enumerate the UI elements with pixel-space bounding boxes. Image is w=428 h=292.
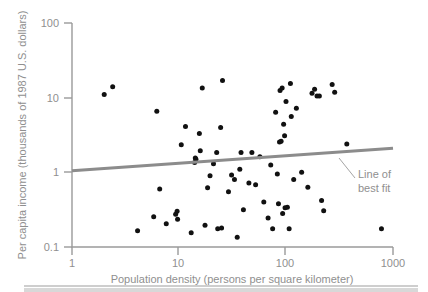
data-point (249, 150, 254, 155)
data-point (330, 82, 335, 87)
data-point (198, 148, 203, 153)
data-point (220, 78, 225, 83)
data-point (208, 173, 213, 178)
data-point (280, 211, 285, 216)
data-point (266, 215, 271, 220)
data-point (205, 185, 210, 190)
x-tick-marks (72, 247, 393, 255)
data-point (332, 90, 337, 95)
data-point (273, 110, 278, 115)
data-point (218, 125, 223, 130)
data-point (268, 163, 273, 168)
data-point (229, 173, 234, 178)
x-axis-title: Population density (persons per square k… (111, 273, 354, 285)
data-point (214, 150, 219, 155)
data-point (279, 139, 284, 144)
data-point (284, 99, 289, 104)
x-tick-label-100: 100 (276, 257, 294, 269)
data-point (200, 85, 205, 90)
data-point (219, 225, 224, 230)
data-point (157, 186, 162, 191)
x-tick-label-10: 10 (172, 257, 184, 269)
y-tick-label-10: 10 (47, 92, 59, 104)
y-axis-title: Per capita income (thousands of 1987 U.S… (16, 11, 28, 260)
data-point (203, 223, 208, 228)
data-point (241, 207, 246, 212)
data-point (285, 205, 290, 210)
data-point (281, 122, 286, 127)
scatter-plot: 100 10 1 0.1 1 10 100 1000 Population de… (0, 0, 428, 292)
annotation-leader-line (339, 158, 355, 178)
data-point (261, 200, 266, 205)
data-point (154, 109, 159, 114)
data-point (312, 87, 317, 92)
data-point (232, 177, 237, 182)
data-point (344, 141, 349, 146)
data-point (287, 226, 292, 231)
data-point (288, 81, 293, 86)
data-point (175, 217, 180, 222)
data-point (319, 198, 324, 203)
data-point (282, 133, 287, 138)
data-point (246, 180, 251, 185)
annotation-best-fit: best fit (358, 182, 390, 194)
data-point (135, 228, 140, 233)
x-tick-label-1000: 1000 (381, 257, 405, 269)
data-point (276, 201, 281, 206)
data-point (197, 131, 202, 136)
data-point (270, 226, 275, 231)
data-point (280, 85, 285, 90)
axis-spines (72, 23, 393, 247)
data-point (235, 235, 240, 240)
data-point (237, 167, 242, 172)
annotation-line-of: Line of (358, 168, 392, 180)
data-point (305, 185, 310, 190)
figure-container: 100 10 1 0.1 1 10 100 1000 Population de… (0, 0, 428, 292)
data-point (179, 142, 184, 147)
data-point (189, 230, 194, 235)
y-tick-label-1: 1 (53, 166, 59, 178)
data-point (299, 170, 304, 175)
data-point (317, 94, 322, 99)
data-point (275, 172, 280, 177)
data-point (102, 92, 107, 97)
data-point (291, 177, 296, 182)
y-tick-label-0point1: 0.1 (44, 241, 59, 253)
data-point (289, 114, 294, 119)
y-tick-marks (64, 23, 72, 247)
data-point (294, 106, 299, 111)
data-point (253, 182, 258, 187)
footer-band (24, 288, 418, 292)
data-point (379, 226, 384, 231)
data-point (321, 208, 326, 213)
data-point (164, 221, 169, 226)
line-of-best-fit (72, 148, 393, 170)
data-point (183, 124, 188, 129)
y-tick-label-100: 100 (41, 17, 59, 29)
data-point (226, 189, 231, 194)
x-tick-label-1: 1 (69, 257, 75, 269)
data-point (239, 150, 244, 155)
data-point (175, 209, 180, 214)
data-point (110, 84, 115, 89)
data-point (151, 214, 156, 219)
